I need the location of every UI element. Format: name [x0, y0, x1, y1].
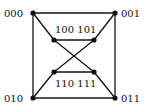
- hypercube-diagram: 000 001 010 011 100 101 110 111: [0, 0, 147, 112]
- node-000: [30, 10, 35, 15]
- edge-000-100: [33, 13, 54, 40]
- edge-011-111: [94, 72, 115, 98]
- edge-001-101: [94, 13, 115, 40]
- node-101: [91, 37, 96, 42]
- edge-010-110: [33, 72, 54, 98]
- label-011: 011: [121, 93, 140, 104]
- label-inner-bottom: 110 111: [55, 78, 96, 89]
- node-010: [30, 95, 35, 100]
- label-000: 000: [4, 8, 23, 19]
- node-001: [112, 10, 117, 15]
- node-111: [91, 69, 96, 74]
- label-010: 010: [4, 93, 23, 104]
- label-001: 001: [121, 8, 140, 19]
- node-110: [51, 69, 56, 74]
- node-100: [51, 37, 56, 42]
- node-011: [112, 95, 117, 100]
- label-inner-top: 100 101: [55, 24, 96, 35]
